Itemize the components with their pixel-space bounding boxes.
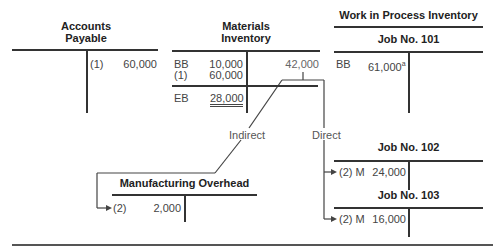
moh-title: Manufacturing Overhead <box>112 177 257 189</box>
t-account-divider <box>408 207 410 237</box>
balance-line <box>172 85 318 87</box>
accounts-payable-title: Accounts Payable <box>40 20 132 44</box>
bottom-rule <box>12 244 493 246</box>
job-103-title: Job No. 103 <box>334 189 483 201</box>
title-line: Inventory <box>200 32 292 44</box>
ending-ref: EB <box>174 92 189 104</box>
entry-ref: (2) M <box>339 213 365 225</box>
t-account-divider <box>184 194 186 222</box>
job-101-title: Job No. 101 <box>334 33 483 45</box>
ending-amount: 28,000 <box>210 92 243 107</box>
t-account-divider <box>408 160 410 190</box>
title-line: Payable <box>40 32 132 44</box>
entry-ref: (1) <box>174 69 187 81</box>
wip-title: Work in Process Inventory <box>334 9 483 21</box>
direct-label: Direct <box>312 129 341 141</box>
entry-amount: 2,000 <box>140 202 181 214</box>
entry-amount: 16,000 <box>366 213 406 225</box>
materials-inventory-title: Materials Inventory <box>200 20 292 44</box>
amount-value: 61,000 <box>368 61 402 73</box>
title-line: Accounts <box>40 20 132 32</box>
indirect-label: Indirect <box>229 129 265 141</box>
entry-ref: BB <box>336 58 351 70</box>
entry-ref: (2) M <box>339 166 365 178</box>
job-102-title: Job No. 102 <box>334 141 483 153</box>
t-account-top-line <box>12 49 158 51</box>
t-account-divider <box>246 50 248 113</box>
footnote-marker: a <box>402 60 406 67</box>
entry-amount: 60,000 <box>196 69 243 81</box>
title-line: Materials <box>200 20 292 32</box>
entry-ref: (2) <box>113 202 126 214</box>
entry-amount: 60,000 <box>110 58 157 70</box>
entry-amount: 24,000 <box>366 166 406 178</box>
entry-ref: (1) <box>90 58 103 70</box>
wip-title-line <box>334 26 483 28</box>
t-account-divider <box>86 49 88 113</box>
t-account-divider <box>408 51 410 113</box>
credit-amount: 42,000 <box>270 58 319 70</box>
entry-amount: 61,000a <box>368 58 406 73</box>
